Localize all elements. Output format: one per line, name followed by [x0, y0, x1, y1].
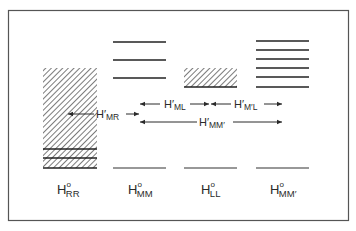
coupling-mr-label: H′MR — [96, 108, 119, 122]
energy-level-diagram: H′MR H′ML H′M′L H′MM′ HoRR HoMM HoLL HoM… — [0, 0, 356, 231]
coupling-mmp: H′MM′ — [140, 116, 282, 130]
column-labels: HoRR HoMM HoLL HoMM′ — [57, 180, 297, 199]
column-mm — [113, 42, 166, 168]
label-ll: HoLL — [201, 180, 220, 199]
label-mmprime: HoMM′ — [270, 180, 297, 199]
label-mm: HoMM — [128, 180, 153, 199]
column-mmprime — [256, 41, 309, 168]
coupling-mpl-label: H′M′L — [234, 98, 258, 112]
ll-band — [184, 68, 237, 87]
coupling-ml-label: H′ML — [164, 98, 186, 112]
column-ll — [184, 68, 237, 168]
coupling-ml: H′ML — [140, 98, 209, 112]
label-rr: HoRR — [57, 180, 80, 199]
coupling-mpl: H′M′L — [211, 98, 282, 112]
coupling-mmp-label: H′MM′ — [199, 116, 225, 130]
rr-continuum-band — [43, 68, 97, 168]
column-rr — [43, 68, 97, 168]
